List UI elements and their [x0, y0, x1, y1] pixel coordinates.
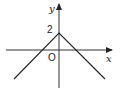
- function-graph: y x 2 O: [0, 0, 121, 95]
- y-intercept-label: 2: [47, 24, 53, 35]
- x-axis-label: x: [106, 53, 112, 64]
- y-axis-label: y: [48, 3, 55, 14]
- origin-label: O: [48, 52, 56, 63]
